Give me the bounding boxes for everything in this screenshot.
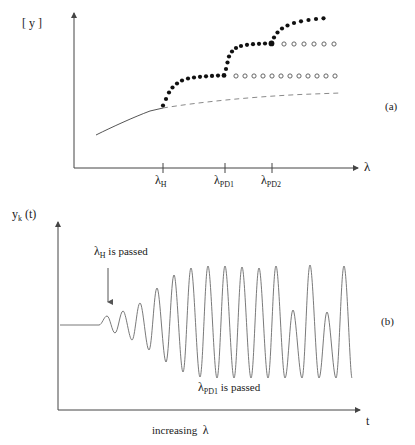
tick-label-lambda-pd1-subscript: PD1 xyxy=(220,180,234,189)
annotation-hopf-subscript: H xyxy=(100,251,106,260)
figure-canvas xyxy=(0,0,415,445)
tick-label-lambda-pd2: λPD2 xyxy=(261,174,281,189)
panel-a-x-axis-label: λ xyxy=(364,160,370,173)
panel-b-bottom-caption: increasing λ xyxy=(152,424,209,436)
panel-a-axes xyxy=(74,13,358,173)
annotation-pd1-text: is passed xyxy=(221,381,260,393)
figure-root: [ y ] λ λH λPD1 λPD2 (a) yk (t) t λH is … xyxy=(0,0,415,445)
annotation-hopf-text: is passed xyxy=(108,245,147,257)
panel-b-x-axis-label: t xyxy=(366,415,369,427)
annotation-pd1-passed: λPD1 is passed xyxy=(198,381,260,396)
panel-b-bottom-caption-text: increasing xyxy=(152,424,197,436)
tick-label-lambda-h-subscript: H xyxy=(161,180,167,189)
annotation-hopf-passed: λH is passed xyxy=(94,245,148,260)
period-1-filled-dots xyxy=(161,73,227,108)
tick-label-lambda-pd1: λPD1 xyxy=(214,174,234,189)
panel-b-tag: (b) xyxy=(381,316,394,327)
panel-b-y-axis-label-arg: (t) xyxy=(25,207,36,221)
panel-a-y-axis-label: [ y ] xyxy=(22,17,42,29)
period-2-filled-dots xyxy=(224,41,275,72)
stable-steady-state-curve xyxy=(96,108,163,135)
period-2-open-dots xyxy=(282,42,336,46)
panel-a-tag: (a) xyxy=(385,101,397,112)
unstable-steady-state-curve xyxy=(163,93,340,108)
tick-label-lambda-pd2-subscript: PD2 xyxy=(267,180,281,189)
tick-label-lambda-h: λH xyxy=(155,174,167,189)
timeseries-waveform xyxy=(60,265,352,378)
annotation-pd1-subscript: PD1 xyxy=(204,387,218,396)
panel-b-bottom-caption-symbol: λ xyxy=(203,423,209,437)
period-4-filled-dots xyxy=(272,16,326,39)
period-1-open-dots xyxy=(234,74,337,78)
panel-b-y-axis-label: yk (t) xyxy=(12,208,36,223)
panel-b-y-axis-label-sub: k xyxy=(18,214,22,223)
